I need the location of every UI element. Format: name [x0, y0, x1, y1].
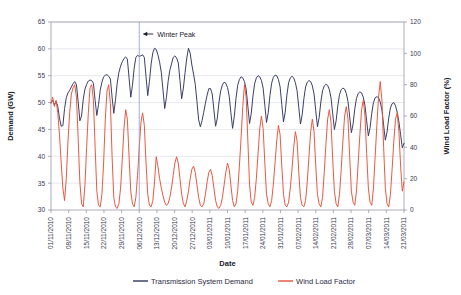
x-axis-tick-label: 10/01/2011 — [224, 217, 231, 249]
x-axis-tick-label: 21/03/2011 — [400, 217, 407, 249]
y-axis-tick-label: 50 — [38, 99, 46, 106]
y2-axis-tick-label: 40 — [410, 144, 418, 151]
x-axis-tick-label: 31/01/2011 — [277, 217, 284, 249]
y2-axis-tick-label: 0 — [410, 206, 414, 213]
x-axis-tick-label: 06/12/2010 — [136, 217, 143, 250]
x-axis-tick-label: 15/11/2010 — [83, 217, 90, 249]
x-axis-tick-label: 27/12/2010 — [189, 217, 196, 250]
y2-axis-title: Wind Load Factor (%) — [442, 77, 451, 155]
y-axis-title: Demand (GW) — [6, 91, 15, 141]
x-axis-tick-label: 03/01/2011 — [206, 217, 213, 249]
y2-axis-tick-label: 100 — [410, 50, 421, 57]
y-axis-tick-label: 30 — [38, 206, 46, 213]
x-axis-tick-label: 22/11/2010 — [100, 217, 107, 249]
y-axis-tick-label: 60 — [38, 45, 46, 52]
x-axis-tick-label: 07/03/2011 — [365, 217, 372, 249]
series-line-wind-load-factor — [51, 82, 404, 209]
x-axis-tick-label: 21/02/2011 — [330, 217, 337, 249]
x-axis-tick-label: 14/03/2011 — [383, 217, 390, 249]
x-axis-tick-label: 13/12/2010 — [153, 217, 160, 250]
y2-axis-tick-label: 120 — [410, 18, 421, 25]
wind-demand-chart: 303540455055606502040608010012001/11/201… — [0, 0, 461, 295]
y-axis-tick-label: 35 — [38, 180, 46, 187]
y-axis-tick-label: 55 — [38, 72, 46, 79]
x-axis-tick-label: 01/11/2010 — [47, 217, 54, 249]
x-axis-title: Date — [219, 259, 235, 268]
x-axis-tick-label: 14/02/2011 — [312, 217, 319, 249]
y-axis-tick-label: 65 — [38, 18, 46, 25]
x-axis-tick-label: 28/02/2011 — [347, 217, 354, 249]
y2-axis-tick-label: 80 — [410, 81, 418, 88]
y2-axis-tick-label: 60 — [410, 112, 418, 119]
legend-label: Transmission System Demand — [151, 277, 253, 286]
y-axis-tick-label: 40 — [38, 153, 46, 160]
legend-label: Wind Load Factor — [296, 277, 356, 286]
x-axis-tick-label: 20/12/2010 — [171, 217, 178, 250]
x-axis-tick-label: 07/02/2011 — [295, 217, 302, 249]
x-axis-tick-label: 17/01/2011 — [242, 217, 249, 249]
y-axis-tick-label: 45 — [38, 126, 46, 133]
y2-axis-tick-label: 20 — [410, 175, 418, 182]
winter-peak-arrowhead — [143, 32, 147, 36]
series-line-transmission-system-demand — [51, 48, 404, 147]
chart-svg: 303540455055606502040608010012001/11/201… — [0, 0, 461, 295]
x-axis-tick-label: 24/01/2011 — [259, 217, 266, 249]
x-axis-tick-label: 29/11/2010 — [118, 217, 125, 249]
x-axis-tick-label: 08/11/2010 — [65, 217, 72, 249]
winter-peak-label: Winter Peak — [157, 31, 196, 38]
